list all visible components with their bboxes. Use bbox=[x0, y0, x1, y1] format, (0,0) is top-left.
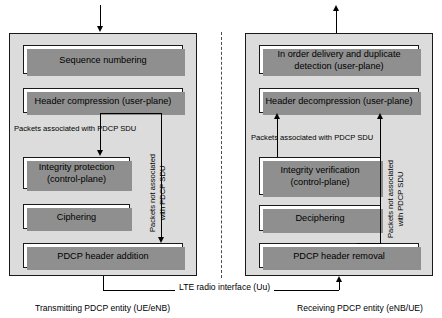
box-ciphering-label: Ciphering bbox=[53, 211, 100, 223]
box-in-order-delivery-label: In order delivery and duplicate detectio… bbox=[273, 48, 404, 72]
box-integrity-protection-label: Integrity protection (control-plane) bbox=[35, 161, 119, 185]
uu-link-from-tx bbox=[103, 276, 104, 290]
box-deciphering: Deciphering bbox=[259, 205, 381, 231]
box-integrity-verification: Integrity verification (control-plane) bbox=[259, 157, 381, 195]
box-sequence-numbering-label: Sequence numbering bbox=[55, 54, 150, 66]
rx-pna-line2: with PDCP SDU bbox=[396, 172, 405, 227]
rx-packets-associated-label: Packets associated with PDCP SDU bbox=[251, 133, 373, 143]
rx-packets-not-associated-label: Packets not associated with PDCP SDU bbox=[386, 160, 405, 238]
receiving-entity-caption: Receiving PDCP entity (eNB/UE) bbox=[297, 303, 423, 313]
box-pdcp-header-addition: PDCP header addition bbox=[23, 243, 183, 268]
rx-bypass-bottom bbox=[357, 243, 381, 244]
uu-link-to-rx bbox=[339, 282, 340, 290]
box-ciphering: Ciphering bbox=[23, 204, 130, 229]
transmit-input-arrowhead bbox=[97, 26, 103, 32]
box-sequence-numbering: Sequence numbering bbox=[23, 45, 183, 74]
box-header-decompression-label: Header decompression (user-plane) bbox=[261, 95, 416, 107]
box-pdcp-header-removal: PDCP header removal bbox=[259, 243, 419, 268]
box-pdcp-header-removal-label: PDCP header removal bbox=[289, 250, 389, 262]
rx-bypass-arrowhead bbox=[377, 113, 383, 119]
box-pdcp-header-addition-label: PDCP header addition bbox=[53, 250, 152, 262]
box-header-compression: Header compression (user-plane) bbox=[23, 88, 183, 113]
lte-radio-interface-label: LTE radio interface (Uu) bbox=[175, 282, 274, 292]
pdcp-architecture-diagram: Sequence numbering Header compression (u… bbox=[0, 0, 442, 318]
tx-pna-line1: Packets not associated bbox=[148, 154, 157, 232]
box-header-compression-label: Header compression (user-plane) bbox=[31, 95, 176, 107]
rx-pna-line1: Packets not associated bbox=[386, 160, 395, 238]
tx-packets-associated-label: Packets associated with PDCP SDU bbox=[14, 124, 136, 134]
tx-pna-line2: with PDCP SDU bbox=[158, 166, 167, 221]
integrity-protection-line2: (control-plane) bbox=[47, 174, 106, 184]
in-order-delivery-line1: In order delivery and duplicate bbox=[277, 49, 400, 59]
receive-output-arrowhead bbox=[333, 5, 339, 11]
box-integrity-protection: Integrity protection (control-plane) bbox=[23, 157, 130, 189]
rx-bypass-vertical bbox=[380, 119, 381, 243]
integrity-verification-line1: Integrity verification bbox=[280, 165, 359, 175]
entity-divider bbox=[221, 32, 222, 278]
receive-output-line bbox=[336, 11, 337, 33]
integrity-verification-line2: (control-plane) bbox=[290, 177, 349, 187]
tx-packets-not-associated-label: Packets not associated with PDCP SDU bbox=[148, 154, 167, 232]
rx-assoc-arrowhead bbox=[274, 113, 280, 119]
in-order-delivery-line2: detection (user-plane) bbox=[294, 61, 383, 71]
tx-bypass-arrowhead bbox=[158, 237, 164, 243]
tx-assoc-arrowhead bbox=[97, 150, 103, 156]
integrity-protection-line1: Integrity protection bbox=[39, 162, 115, 172]
uu-link-arrowhead bbox=[336, 276, 342, 282]
transmit-input-line bbox=[100, 5, 101, 27]
box-in-order-delivery: In order delivery and duplicate detectio… bbox=[259, 45, 419, 74]
box-integrity-verification-label: Integrity verification (control-plane) bbox=[276, 164, 363, 188]
tx-bypass-top bbox=[100, 113, 161, 114]
transmitting-entity-caption: Transmitting PDCP entity (UE/eNB) bbox=[35, 303, 170, 313]
box-header-decompression: Header decompression (user-plane) bbox=[259, 88, 419, 113]
box-deciphering-label: Deciphering bbox=[291, 212, 348, 224]
